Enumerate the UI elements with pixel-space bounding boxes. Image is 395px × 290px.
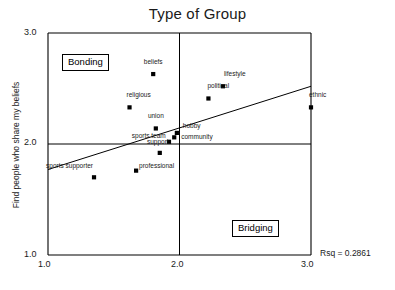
data-point-label: support — [147, 139, 169, 146]
data-point-marker — [172, 135, 176, 139]
data-point-label: hobby — [183, 123, 201, 130]
data-point-label: community — [181, 134, 212, 141]
data-point-markers — [92, 72, 313, 179]
data-point-label: lifestyle — [224, 71, 246, 78]
quadrant-label-bonding: Bonding — [62, 54, 109, 71]
quadrant-label-bridging: Bridging — [232, 220, 279, 237]
data-point-label: sports team — [132, 133, 166, 140]
data-point-label: beliefs — [144, 59, 163, 66]
data-point-label: union — [148, 113, 164, 120]
data-point-marker — [206, 96, 210, 100]
data-point-marker — [158, 151, 162, 155]
rsq-statistic: Rsq = 0.2861 — [320, 248, 371, 258]
data-point-label: political — [207, 83, 229, 90]
data-point-label: ethnic — [309, 92, 326, 99]
data-point-label: religious — [127, 92, 151, 99]
scatter-plot-figure: Type of Group Find people who share my b… — [0, 0, 395, 290]
data-point-marker — [92, 175, 96, 179]
data-point-marker — [127, 105, 131, 109]
plot-canvas — [0, 0, 395, 290]
data-point-marker — [309, 105, 313, 109]
data-point-marker — [175, 131, 179, 135]
data-point-label: sports supporter — [46, 163, 93, 170]
data-point-label: professional — [139, 163, 174, 170]
data-point-marker — [154, 126, 158, 130]
data-point-marker — [151, 72, 155, 76]
data-point-marker — [134, 169, 138, 173]
